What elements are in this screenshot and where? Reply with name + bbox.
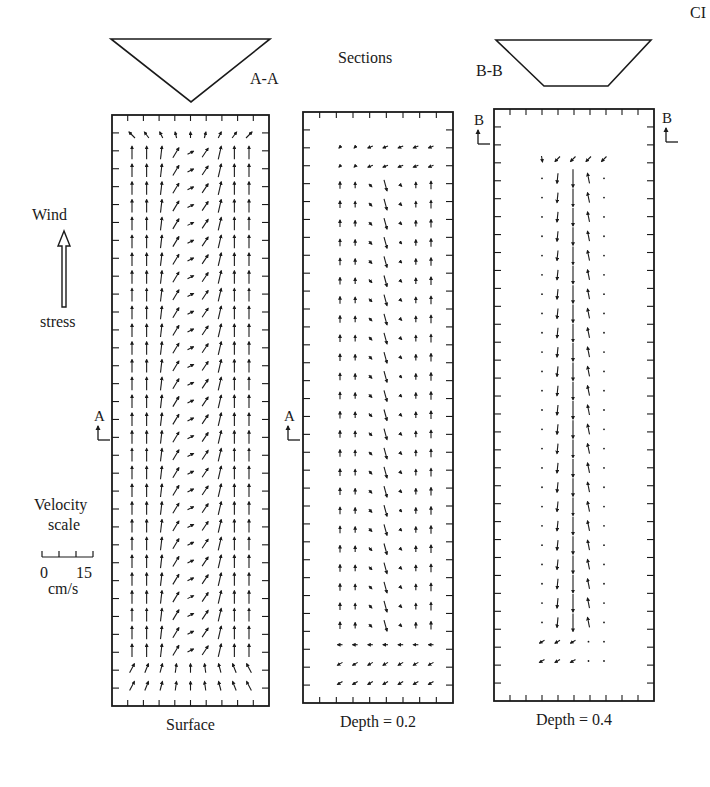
section-b-b-label: B-B xyxy=(476,62,503,79)
velocity-scale-title-2: scale xyxy=(48,516,80,533)
svg-text:B: B xyxy=(474,112,484,128)
velocity-scale-min: 0 xyxy=(40,564,48,581)
section-marker-b: B xyxy=(474,112,490,144)
section-b-b-trapezoid xyxy=(496,40,651,86)
wind-arrow-icon xyxy=(58,231,70,307)
section-marker-a: A xyxy=(94,408,110,440)
wind-label: Wind xyxy=(32,206,67,223)
caption-surface: Surface xyxy=(166,716,215,733)
velocity-scale-legend: Velocity scale 0 15 cm/s xyxy=(34,496,93,597)
panel-surface xyxy=(112,115,269,706)
velocity-vectors xyxy=(338,146,434,685)
panel-depth-0-4 xyxy=(494,109,654,701)
velocity-vectors xyxy=(540,156,607,663)
velocity-scale-max: 15 xyxy=(76,564,92,581)
panel-depth-0-2 xyxy=(303,112,453,703)
velocity-scale-title-1: Velocity xyxy=(34,496,87,514)
section-marker-b: B xyxy=(662,110,678,142)
caption-depth-0-4: Depth = 0.4 xyxy=(536,711,612,729)
caption-depth-0-2: Depth = 0.2 xyxy=(340,713,416,731)
svg-text:B: B xyxy=(662,110,672,126)
section-marker-a: A xyxy=(284,408,300,440)
velocity-scale-bar xyxy=(42,551,93,557)
svg-text:A: A xyxy=(284,408,295,424)
stress-label: stress xyxy=(40,313,76,330)
section-a-a-triangle xyxy=(111,39,270,102)
section-shapes: A-A B-B Sections xyxy=(111,39,651,102)
velocity-vectors xyxy=(129,132,252,691)
section-a-a-label: A-A xyxy=(250,70,279,87)
section-markers: AABB xyxy=(94,110,678,440)
svg-text:A: A xyxy=(94,408,105,424)
velocity-scale-unit: cm/s xyxy=(48,580,78,597)
wind-stress-legend: Wind stress xyxy=(32,206,76,330)
sections-title: Sections xyxy=(338,49,392,66)
velocity-field-figure: A-A B-B Sections Wind stress Velocity sc… xyxy=(0,0,710,787)
